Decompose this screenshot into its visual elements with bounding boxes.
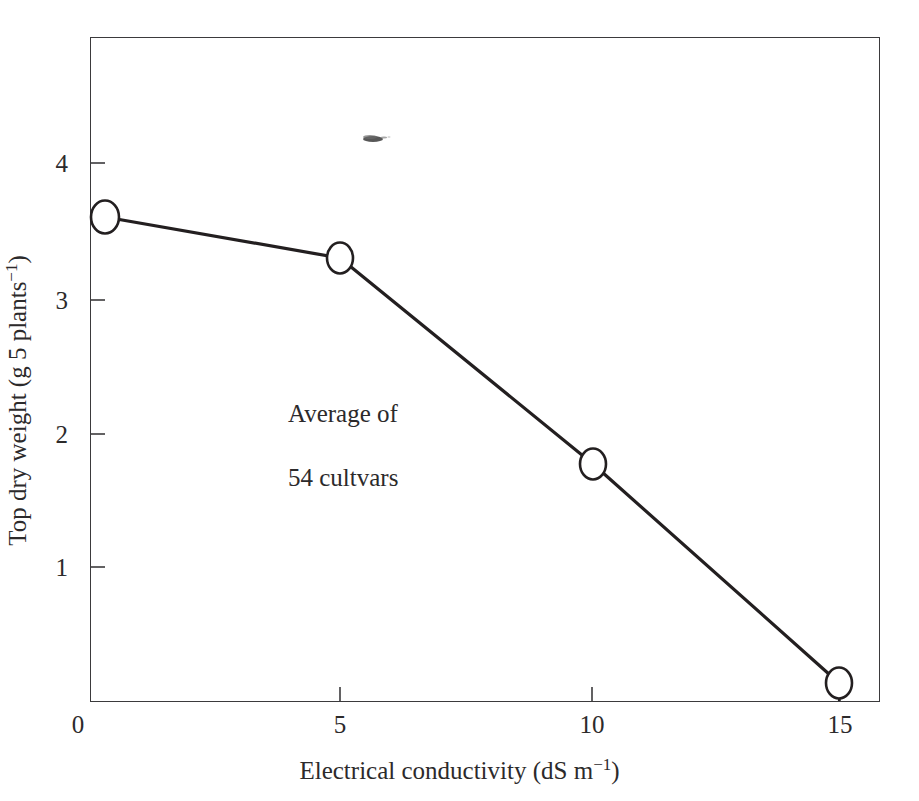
y-axis-title-tail: ) [4,255,31,263]
annotation-line-1: Average of [288,398,398,430]
figure-root: 0 5 10 15 4 3 2 1 Average of 54 cultvars… [0,0,919,801]
y-axis-title: Top dry weight (g 5 plants−1) [0,0,40,801]
x-axis-title-main: Electrical conductivity (dS m [299,757,593,784]
x-tick-label-5: 5 [334,712,347,737]
x-tick-label-10: 10 [580,712,605,737]
x-axis-title-exponent: −1 [593,755,611,774]
annotation-line-2: 54 cultvars [288,462,398,494]
annotation-average-of-54-cultvars: Average of 54 cultvars [288,366,398,526]
plot-area-frame [90,37,880,702]
x-tick-label-15: 15 [828,712,853,737]
x-axis-title-tail: ) [611,757,619,784]
y-axis-title-exponent: −1 [2,264,21,282]
y-axis-title-main: Top dry weight (g 5 plants [4,282,31,546]
x-tick-label-0: 0 [72,712,85,737]
x-axis-title: Electrical conductivity (dS m−1) [0,757,919,785]
